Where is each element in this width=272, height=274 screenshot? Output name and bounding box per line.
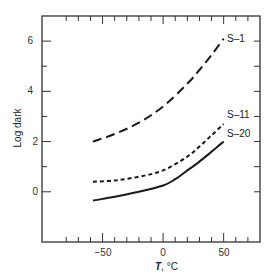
curve-s11 <box>93 124 224 182</box>
series-label-s20: S–20 <box>227 128 251 139</box>
y-tick-label-4: 4 <box>27 85 33 96</box>
x-axis-title: T, °C <box>155 261 178 272</box>
x-tick-label-50: 50 <box>218 247 230 258</box>
y-tick-label-6: 6 <box>27 35 33 46</box>
y-tick-label-2: 2 <box>32 136 38 147</box>
curve-s20 <box>93 142 224 201</box>
chart-canvas: 6 4 2 0 −50 0 50 T, °C Log dark S–1 S–11… <box>0 0 272 274</box>
series-label-s11: S–11 <box>227 109 250 120</box>
data-curves <box>93 39 224 201</box>
y-tick-label-0: 0 <box>32 186 38 197</box>
x-axis-title-unit: , °C <box>161 261 178 272</box>
y-axis-title: Log dark <box>12 108 23 148</box>
x-tick-label-0: 0 <box>160 247 166 258</box>
curve-s1 <box>93 39 224 142</box>
x-tick-label-m50: −50 <box>95 247 112 258</box>
series-label-s1: S–1 <box>227 33 245 44</box>
